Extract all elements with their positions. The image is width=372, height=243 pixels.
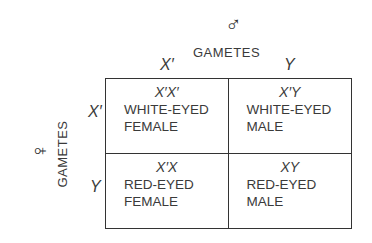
- cell-white-eyed-male: X′Y WHITE-EYED MALE: [229, 79, 352, 154]
- col-label-x-prime: X′: [160, 56, 174, 74]
- row-label-y: Y: [90, 178, 101, 196]
- phenotype: RED-EYED: [124, 176, 228, 193]
- genotype: X′Y: [247, 84, 352, 101]
- male-gametes-label: GAMETES: [193, 45, 260, 60]
- genotype: XY: [247, 159, 352, 176]
- male-symbol-icon: ♂: [225, 14, 242, 36]
- female-gametes-label: GAMETES: [55, 120, 70, 187]
- col-label-y: Y: [284, 56, 295, 74]
- sex: FEMALE: [124, 193, 228, 210]
- genotype: X′X′: [124, 84, 228, 101]
- sex: MALE: [247, 193, 352, 210]
- cell-red-eyed-female: X′X RED-EYED FEMALE: [106, 154, 229, 229]
- female-symbol-icon: ♀: [29, 143, 51, 160]
- phenotype: WHITE-EYED: [124, 101, 228, 118]
- sex: MALE: [247, 118, 352, 135]
- sex: FEMALE: [124, 118, 228, 135]
- cell-red-eyed-male: XY RED-EYED MALE: [229, 154, 352, 229]
- row-label-x-prime: X′: [88, 103, 102, 121]
- cell-white-eyed-female: X′X′ WHITE-EYED FEMALE: [106, 79, 229, 154]
- punnett-square: X′X′ WHITE-EYED FEMALE X′Y WHITE-EYED MA…: [105, 78, 352, 229]
- phenotype: WHITE-EYED: [247, 101, 352, 118]
- genotype: X′X: [124, 159, 228, 176]
- phenotype: RED-EYED: [247, 176, 352, 193]
